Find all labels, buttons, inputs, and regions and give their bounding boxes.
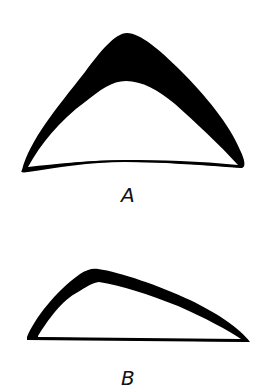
- shape-b: [27, 269, 250, 342]
- figure-label-a: A: [121, 185, 135, 205]
- figure-label-b: B: [121, 368, 135, 388]
- shape-a: [21, 33, 244, 172]
